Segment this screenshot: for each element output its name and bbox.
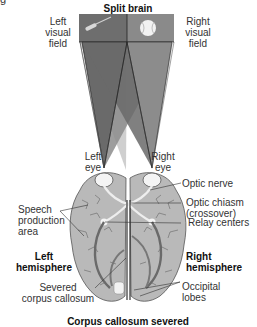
left-eyeball	[95, 173, 113, 187]
right-eyeball	[143, 173, 161, 187]
left-visual-field-label: Leftvisualfield	[38, 16, 78, 49]
severed-corpus-callosum-label: Severedcorpus callosum	[20, 282, 96, 304]
right-eye-label: Righteye	[148, 151, 178, 173]
right-visual-field-label: Rightvisualfield	[178, 16, 218, 49]
occipital-lobes-label: Occipitallobes	[182, 281, 220, 303]
left-hemisphere-label: Lefthemisphere	[14, 251, 74, 273]
optic-nerve-label: Optic nerve	[182, 178, 233, 189]
right-hemisphere-label: Righthemisphere	[186, 251, 242, 273]
relay-centers-label: Relay centers	[188, 217, 249, 228]
speech-area-label: Speechproductionarea	[18, 204, 65, 237]
caption: Corpus callosum severed	[40, 316, 216, 327]
left-eye-label: Lefteye	[80, 151, 106, 173]
severed-callosum-mark	[114, 282, 124, 294]
baseball-icon	[140, 20, 156, 36]
optic-chiasm-label: Optic chiasm(crossover)	[186, 197, 244, 219]
